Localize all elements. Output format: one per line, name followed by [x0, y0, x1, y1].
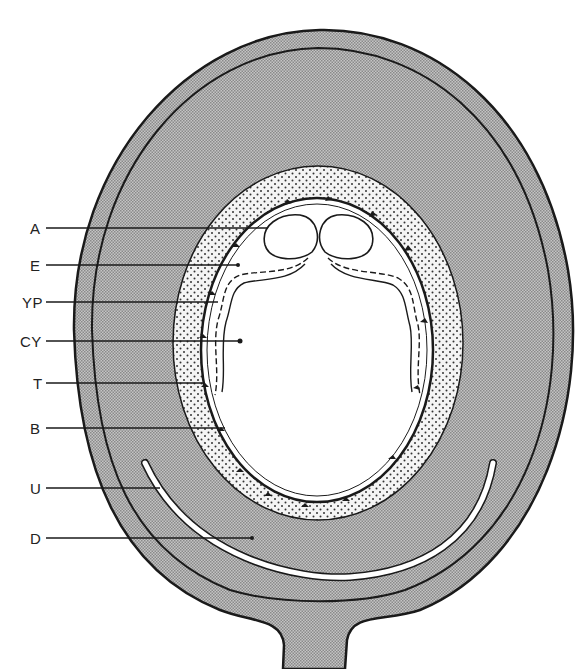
label-b: B: [30, 421, 41, 436]
diagram-canvas: [0, 0, 585, 669]
label-a: A: [30, 221, 41, 236]
label-cy: CY: [20, 334, 42, 349]
label-yp: YP: [22, 295, 43, 310]
label-d: D: [30, 531, 41, 546]
label-u: U: [30, 481, 41, 496]
label-e: E: [30, 258, 41, 273]
label-t: T: [33, 376, 43, 391]
